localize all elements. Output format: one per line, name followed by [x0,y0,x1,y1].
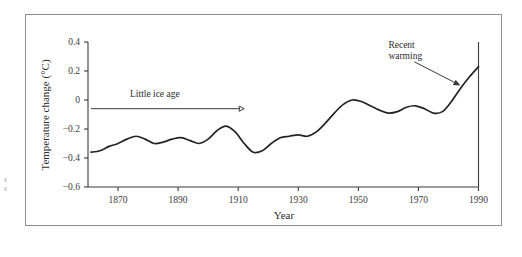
x-tick-label: 1970 [409,195,428,205]
x-axis-title: Year [274,209,295,221]
x-tick-label: 1930 [289,195,308,205]
annotation-little-ice-age: Little ice age [91,89,244,111]
recent-warming-label-line2: warming [388,51,422,61]
x-tick-labels: 1870189019101930195019701990 [109,195,489,205]
y-tick-label: −0.4 [63,153,80,163]
y-axis [84,42,88,187]
x-tick-label: 1870 [109,195,128,205]
y-tick-label: −0.6 [63,182,80,192]
y-tick-label: 0 [75,95,80,105]
x-tick-label: 1910 [229,195,248,205]
y-axis-title: Temperature change (°C) [39,59,52,170]
y-tick-label: −0.2 [63,124,80,134]
y-tick-labels: −0.6−0.4−0.200.20.4 [63,37,80,192]
recent-warming-arrow [414,62,456,83]
little-ice-age-label: Little ice age [130,89,180,99]
data-series-line [91,67,479,153]
y-tick-label: 0.4 [68,37,80,47]
x-tick-label: 1990 [469,195,488,205]
temperature-change-line-chart: −0.6−0.4−0.200.20.4 18701890191019301950… [0,0,522,257]
y-tick-label: 0.2 [68,66,80,76]
x-tick-label: 1950 [349,195,368,205]
annotation-recent-warming: Recent warming [388,40,460,86]
recent-warming-label-line1: Recent [388,40,415,50]
x-axis [88,187,479,191]
x-tick-label: 1890 [169,195,188,205]
